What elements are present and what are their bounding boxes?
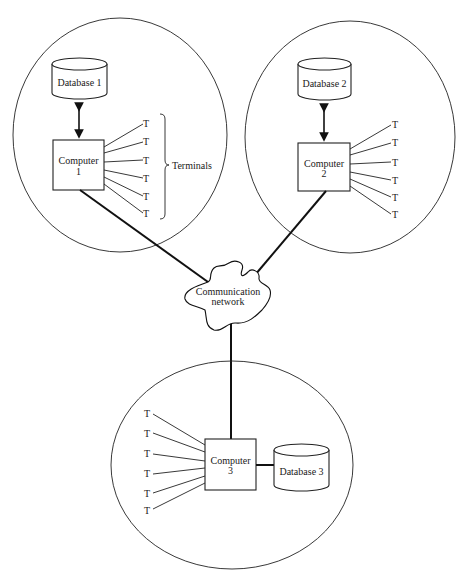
terminal: T bbox=[392, 192, 398, 203]
terminal: T bbox=[392, 119, 398, 130]
terminal: T bbox=[144, 488, 150, 499]
computer-1: Computer 1 bbox=[53, 140, 104, 190]
terminal: T bbox=[143, 136, 149, 147]
terminal: T bbox=[144, 505, 150, 516]
terminal: T bbox=[392, 137, 398, 148]
terminal: T bbox=[143, 118, 149, 129]
terminal: T bbox=[144, 408, 150, 419]
site-3-terminals: T T T T T T bbox=[144, 408, 150, 516]
site-2-terminals: T T T T T T bbox=[392, 119, 398, 220]
site-1-boundary bbox=[13, 18, 227, 252]
network-links bbox=[80, 190, 326, 439]
computer-3: Computer 3 bbox=[205, 439, 256, 490]
computer-2-number: 2 bbox=[322, 168, 327, 179]
site-2-terminal-links bbox=[350, 125, 391, 214]
site-1-terminal-links bbox=[104, 124, 143, 213]
database-1-label: Database 1 bbox=[57, 77, 101, 88]
computer-3-number: 3 bbox=[228, 465, 233, 476]
site-3-terminal-links bbox=[153, 414, 205, 509]
terminal: T bbox=[143, 173, 149, 184]
terminal: T bbox=[143, 191, 149, 202]
terminals-label: Terminals bbox=[172, 160, 212, 171]
terminals-brace bbox=[160, 114, 169, 219]
computer-1-number: 1 bbox=[76, 166, 81, 177]
site-2-boundary bbox=[245, 21, 455, 253]
site-2: Database 2 Computer 2 T T T T T T bbox=[245, 21, 455, 253]
database-2: Database 2 bbox=[298, 58, 351, 100]
computer-2: Computer 2 bbox=[298, 143, 350, 191]
diagram-canvas: Database 1 Computer 1 T T T T T T bbox=[0, 0, 473, 582]
database-1: Database 1 bbox=[52, 58, 107, 99]
database-3-label: Database 3 bbox=[279, 466, 323, 477]
terminal: T bbox=[144, 468, 150, 479]
network-label-line2: network bbox=[212, 296, 245, 307]
database-3: Database 3 bbox=[274, 444, 329, 491]
site-1-terminals: T T T T T T bbox=[143, 118, 149, 219]
terminal: T bbox=[143, 208, 149, 219]
terminal: T bbox=[144, 448, 150, 459]
terminal: T bbox=[392, 157, 398, 168]
terminal: T bbox=[144, 428, 150, 439]
computer-1-label: Computer bbox=[59, 155, 100, 166]
terminal: T bbox=[392, 209, 398, 220]
terminal: T bbox=[143, 155, 149, 166]
site-1: Database 1 Computer 1 T T T T T T bbox=[13, 18, 227, 252]
terminal: T bbox=[392, 175, 398, 186]
database-2-label: Database 2 bbox=[302, 78, 346, 89]
